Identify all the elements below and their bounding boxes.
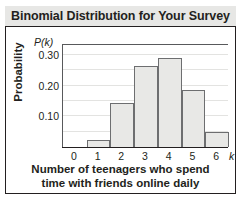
x-tick-label: 6 [209, 150, 223, 162]
x-tick-label: 2 [114, 150, 128, 162]
x-tick-label: 4 [162, 150, 176, 162]
x-axis-symbol-label: k [229, 150, 234, 162]
x-axis-line [62, 147, 228, 149]
x-axis-caption: Number of teenagers who spend time with … [9, 163, 232, 190]
y-tick-label: 0.20 [39, 81, 59, 91]
y-tick-label: 0.10 [39, 111, 59, 121]
x-tick-label: 5 [185, 150, 199, 162]
bar [134, 66, 158, 147]
plot-area [62, 44, 228, 147]
x-tick-label: 3 [138, 150, 152, 162]
figure-root: Binomial Distribution for Your Survey Pr… [0, 0, 241, 199]
x-axis-caption-line-2: time with friends online daily [9, 177, 232, 191]
x-axis-caption-line-1: Number of teenagers who spend [9, 163, 232, 177]
bar [110, 103, 134, 147]
bar [182, 90, 206, 147]
x-tick-labels: k 0123456 [62, 150, 228, 164]
x-tick-label: 0 [67, 150, 81, 162]
y-axis-title: Probability [12, 32, 24, 112]
bar [158, 58, 182, 147]
gridline [63, 54, 228, 55]
x-tick-label: 1 [91, 150, 105, 162]
bar [205, 132, 229, 147]
y-tick-labels: 0.300.200.10 [26, 0, 59, 160]
y-tick-label: 0.30 [39, 50, 59, 60]
